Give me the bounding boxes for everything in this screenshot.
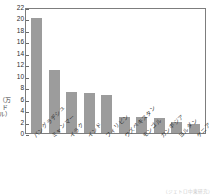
y-tick-label: 18 — [9, 28, 24, 35]
y-tick-label: 16 — [9, 39, 24, 46]
y-tick-label: 14 — [9, 51, 24, 58]
y-tick-mark — [26, 9, 29, 10]
y-tick-mark — [26, 112, 29, 113]
y-tick-mark — [26, 89, 29, 90]
bar-chart: （万ドル） 2220181614121086420 バングラデシュミャンマーイラ… — [0, 0, 215, 195]
y-tick-label: 2 — [9, 119, 24, 126]
y-axis-tick-labels: 2220181614121086420 — [9, 8, 24, 134]
y-tick-mark — [26, 55, 29, 56]
source-caption: （ジェトロ中東研究） — [163, 189, 213, 194]
y-tick-mark — [26, 124, 29, 125]
y-tick-label: 8 — [9, 85, 24, 92]
y-tick-label: 12 — [9, 62, 24, 69]
y-tick-label: 4 — [9, 108, 24, 115]
y-tick-label: 0 — [9, 131, 24, 138]
y-tick-mark — [26, 101, 29, 102]
y-tick-label: 6 — [9, 96, 24, 103]
bar — [31, 18, 42, 133]
y-tick-label: 22 — [9, 5, 24, 12]
x-axis-tick-labels: バングラデシュミャンマーイラクインドフィリピンウズベキスタンモンゴルカンボジアヨ… — [25, 135, 206, 183]
y-tick-mark — [26, 43, 29, 44]
y-tick-mark — [26, 32, 29, 33]
y-tick-label: 10 — [9, 73, 24, 80]
y-tick-mark — [26, 20, 29, 21]
y-tick-mark — [26, 66, 29, 67]
y-tick-label: 20 — [9, 16, 24, 23]
y-tick-mark — [26, 78, 29, 79]
